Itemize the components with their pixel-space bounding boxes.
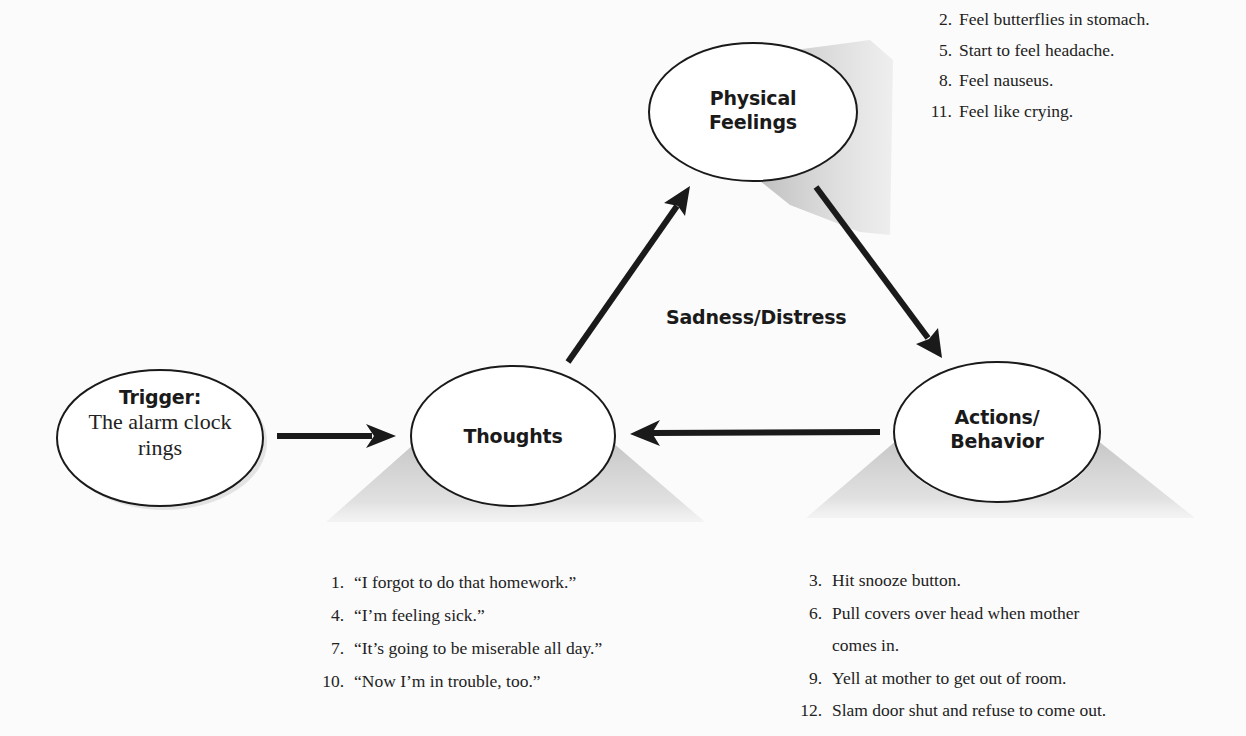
arrow-actions-to-thoughts <box>630 420 880 446</box>
list-item: 8.Feel nauseus. <box>928 65 1150 96</box>
thoughts-title: Thoughts <box>413 424 613 448</box>
thoughts-node: Thoughts <box>413 424 613 448</box>
list-item: 9.Yell at mother to get out of room. <box>792 662 1106 695</box>
list-item: 1.“I forgot to do that homework.” <box>314 566 602 599</box>
center-emotion-label: Sadness/Distress <box>666 306 846 328</box>
physical-title-line2: Feelings <box>653 110 853 134</box>
physical-feelings-list: 2.Feel butterflies in stomach. 5.Start t… <box>928 4 1150 126</box>
actions-behavior-node: Actions/ Behavior <box>897 405 1097 453</box>
list-item: 7.“It’s going to be miserable all day.” <box>314 632 602 665</box>
actions-title-line1: Actions/ <box>897 405 1097 429</box>
trigger-text-line2: rings <box>60 435 260 461</box>
arrow-thoughts-to-physical <box>568 186 690 362</box>
trigger-node: Trigger: The alarm clock rings <box>60 385 260 461</box>
arrow-trigger-to-thoughts <box>277 424 396 448</box>
cbt-cycle-diagram: Trigger: The alarm clock rings Thoughts … <box>0 0 1246 736</box>
list-item: 6.Pull covers over head when mothercomes… <box>792 597 1106 662</box>
list-item: 3.Hit snooze button. <box>792 564 1106 597</box>
physical-title-line1: Physical <box>653 86 853 110</box>
list-item: 2.Feel butterflies in stomach. <box>928 4 1150 35</box>
actions-behavior-list: 3.Hit snooze button. 6.Pull covers over … <box>792 564 1106 727</box>
list-item: 4.“I’m feeling sick.” <box>314 599 602 632</box>
trigger-title: Trigger: <box>60 385 260 409</box>
list-item: 10.“Now I’m in trouble, too.” <box>314 665 602 698</box>
list-item: 5.Start to feel headache. <box>928 35 1150 66</box>
physical-feelings-node: Physical Feelings <box>653 86 853 134</box>
thoughts-list: 1.“I forgot to do that homework.” 4.“I’m… <box>314 566 602 698</box>
list-item: 11.Feel like crying. <box>928 96 1150 127</box>
actions-title-line2: Behavior <box>897 429 1097 453</box>
list-item: 12.Slam door shut and refuse to come out… <box>792 694 1106 727</box>
trigger-text-line1: The alarm clock <box>60 409 260 435</box>
